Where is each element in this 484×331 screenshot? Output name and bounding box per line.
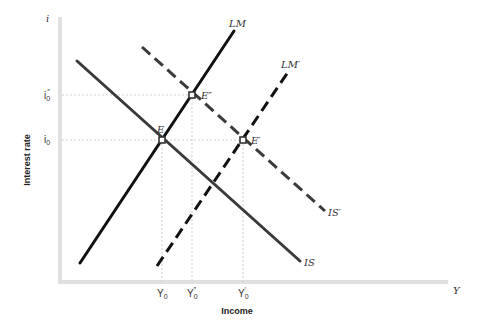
label-IS: IS bbox=[303, 257, 315, 268]
point-E-double-prime bbox=[189, 92, 195, 98]
label-LM-prime: LM′ bbox=[280, 59, 301, 70]
y-tick-i0: i0 bbox=[44, 134, 50, 146]
x-axis-title: Income bbox=[221, 306, 253, 316]
x-tick-Y0: Y0 bbox=[157, 288, 168, 300]
y-axis-title: Interest rate bbox=[22, 134, 32, 186]
label-E-prime: E′ bbox=[250, 135, 261, 146]
lm-prime-curve bbox=[157, 72, 288, 266]
point-E-prime bbox=[240, 137, 246, 143]
guide-lines bbox=[62, 95, 243, 282]
lm-curve bbox=[80, 31, 234, 263]
point-E bbox=[159, 137, 165, 143]
y-tick-i0-double-prime: i0″ bbox=[44, 88, 50, 102]
is-curve bbox=[77, 61, 300, 261]
y-axis-symbol: i bbox=[46, 13, 49, 24]
x-tick-Y0-prime: Y0′ bbox=[238, 286, 249, 300]
is-lm-diagram: E E″ E′ LM LM′ IS IS′ i Y i0″ i0 Y0 Y0″ … bbox=[0, 0, 484, 331]
label-LM: LM bbox=[228, 18, 247, 29]
label-E: E bbox=[156, 124, 165, 135]
label-IS-prime: IS′ bbox=[327, 207, 342, 218]
label-E-double-prime: E″ bbox=[200, 90, 212, 101]
x-axis-symbol: Y bbox=[453, 285, 461, 296]
x-tick-Y0-double-prime: Y0″ bbox=[187, 286, 198, 300]
